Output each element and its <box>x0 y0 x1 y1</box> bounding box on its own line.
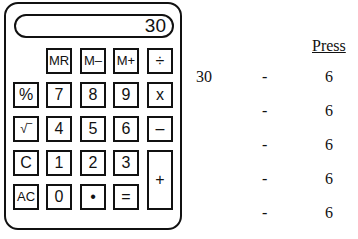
key-14: C <box>13 150 39 176</box>
key-11: 5 <box>80 116 106 142</box>
minus-sign: - <box>262 170 267 188</box>
key-13: – <box>147 116 173 142</box>
calculator-display: 30 <box>14 14 174 38</box>
minus-sign: - <box>262 136 267 154</box>
key-8: x <box>147 82 173 108</box>
key-21: • <box>80 184 106 210</box>
press-value: 6 <box>325 102 333 120</box>
key-18: + <box>147 150 173 210</box>
key-19: AC <box>13 184 39 210</box>
key-20: 0 <box>46 184 72 210</box>
key-12: 6 <box>113 116 139 142</box>
key-3: ÷ <box>147 48 173 74</box>
minus-sign: - <box>262 204 267 222</box>
press-header: Press <box>312 37 346 55</box>
key-1: M– <box>80 48 106 74</box>
key-5: 7 <box>46 82 72 108</box>
key-22: = <box>113 184 139 210</box>
press-value: 6 <box>325 136 333 154</box>
press-value: 6 <box>325 204 333 222</box>
minus-sign: - <box>262 102 267 120</box>
key-7: 9 <box>113 82 139 108</box>
calculator: 30 MRM–M+÷%789x√‾456–C123+AC0•= <box>4 2 182 230</box>
key-0: MR <box>46 48 72 74</box>
key-16: 2 <box>80 150 106 176</box>
key-2: M+ <box>113 48 139 74</box>
press-value: 6 <box>325 68 333 86</box>
key-4: % <box>13 82 39 108</box>
key-15: 1 <box>46 150 72 176</box>
key-10: 4 <box>46 116 72 142</box>
start-value: 30 <box>196 68 212 86</box>
key-17: 3 <box>113 150 139 176</box>
minus-sign: - <box>262 68 267 86</box>
key-9: √‾ <box>13 116 39 142</box>
press-value: 6 <box>325 170 333 188</box>
key-6: 8 <box>80 82 106 108</box>
